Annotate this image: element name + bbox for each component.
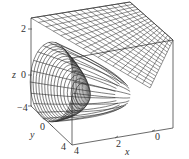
3d-surface-plot: 2 z 0 −4 y 0 4 4 2 x 0 xyxy=(0,0,189,159)
y-tick-0: 0 xyxy=(40,121,45,132)
y-axis-label: y xyxy=(29,129,35,140)
z-axis-label: z xyxy=(11,69,16,80)
paraboloid-surface xyxy=(30,42,130,122)
x-tick-4: 4 xyxy=(74,145,79,156)
z-tick-2: 2 xyxy=(21,23,26,34)
z-tick-neg4: −4 xyxy=(17,102,28,113)
xy-ticks xyxy=(50,124,155,138)
x-axis-label: x xyxy=(124,146,130,157)
z-tick-0: 0 xyxy=(21,69,26,80)
x-tick-0: 0 xyxy=(155,131,160,142)
x-tick-2: 2 xyxy=(116,138,121,149)
y-tick-4: 4 xyxy=(61,141,66,152)
